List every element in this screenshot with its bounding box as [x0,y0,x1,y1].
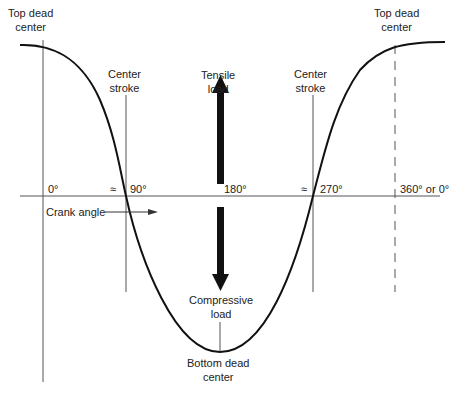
top-dead-center-left-label: Top dead center [8,6,53,34]
center-stroke-left-label: Center stroke [108,67,141,95]
crank-angle-arrow-icon [148,209,158,215]
top-dead-center-right-label: Top dead center [374,6,419,34]
center-stroke-right-label: Center stroke [294,67,327,95]
crank-angle-label: Crank angle [46,205,105,219]
angle-180-label: 180° [224,183,247,195]
tensile-load-label: Tensile load [201,68,235,96]
approx-symbol-right: ≈ [301,183,307,195]
compressive-arrow-shaft [217,207,224,277]
angle-90-label: 90° [130,183,147,195]
approx-symbol-left: ≈ [110,183,116,195]
bottom-dead-center-label: Bottom dead center [187,356,249,384]
angle-0-label: 0° [48,183,59,195]
angle-270-label: 270° [320,183,343,195]
tensile-arrow-shaft [217,90,224,184]
compressive-arrow-icon [212,274,229,291]
compressive-load-label: Compressive load [189,293,253,321]
diagram-canvas [0,0,460,395]
angle-360-label: 360° or 0° [400,183,449,195]
